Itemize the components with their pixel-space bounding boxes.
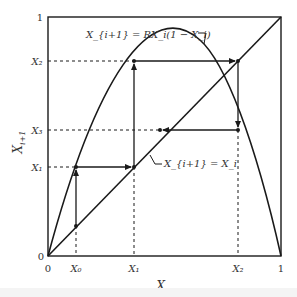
- parabola-curve: [48, 28, 281, 256]
- x-tick-1: 1: [278, 263, 284, 274]
- y-tick-1: 1: [37, 12, 43, 23]
- y-tick-x2: X₂: [30, 56, 42, 67]
- diagonal-line: [48, 17, 281, 256]
- x-tick-x1: X₁: [127, 263, 139, 274]
- x-tick-x2: X₂: [231, 263, 243, 274]
- y-tick-x1: X₁: [30, 162, 42, 173]
- diagonal-leader: [150, 155, 162, 164]
- y-tick-x3: X₃: [30, 125, 42, 136]
- x-tick-x0: X₀: [69, 263, 81, 274]
- y-tick-0: 0: [38, 251, 44, 262]
- diagonal-equation: X_{i+1} = X_i: [163, 158, 237, 170]
- bottom-strip: [0, 288, 297, 297]
- y-axis-label: Xi+1: [11, 131, 27, 155]
- parabola-equation: X_{i+1} = RX_i(1 − X_i): [85, 29, 211, 41]
- cobweb-diagram: X_{i+1} = RX_i(1 − X_i) X_{i+1} = X_i 1 …: [0, 0, 297, 297]
- x-tick-0: 0: [45, 263, 51, 274]
